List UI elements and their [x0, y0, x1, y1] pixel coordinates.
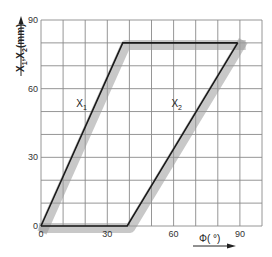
x-axis-arrowhead-icon	[227, 244, 236, 249]
x-axis-label: Φ( °)	[199, 233, 220, 244]
y-tick-label: 30	[28, 152, 38, 162]
x-tick-label: 60	[169, 229, 179, 239]
y-tick-label: 0	[33, 221, 38, 231]
y-tick-label: 90	[28, 15, 38, 25]
series-label-x2: X2	[171, 98, 182, 111]
chart: 0306090 0306090 X1X2 X1,X2(mm) Φ( °)	[0, 0, 272, 257]
y-tick-label: 60	[28, 84, 38, 94]
y-axis-arrowhead-icon	[19, 16, 24, 24]
x-tick-label: 30	[102, 229, 112, 239]
x-tick-label: 90	[235, 229, 245, 239]
y-tick-labels: 0306090	[28, 15, 38, 231]
x-tick-label: 0	[38, 229, 43, 239]
